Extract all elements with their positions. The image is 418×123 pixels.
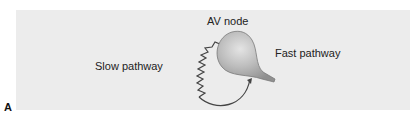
av-node-label: AV node bbox=[207, 15, 248, 27]
slow-pathway-label: Slow pathway bbox=[95, 60, 163, 72]
av-node-shape bbox=[217, 31, 275, 82]
fast-pathway-label: Fast pathway bbox=[275, 47, 340, 59]
lower-connector-line bbox=[199, 79, 250, 106]
panel-letter: A bbox=[4, 101, 12, 113]
